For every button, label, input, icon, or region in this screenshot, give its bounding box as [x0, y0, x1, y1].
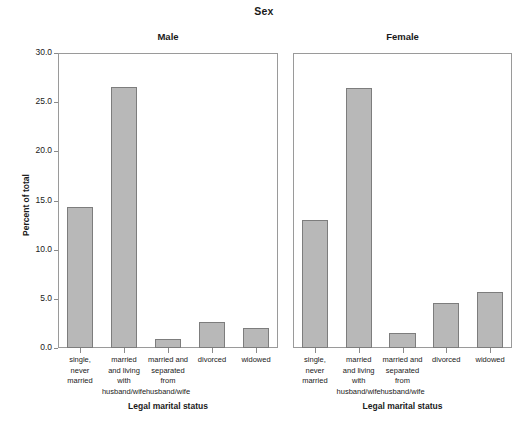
bars-layer: [293, 53, 512, 348]
panel-female: Female: [293, 53, 512, 348]
x-axis-title: Legal marital status: [58, 401, 278, 411]
x-axis-tick-mark: [315, 348, 316, 353]
bar: [477, 292, 503, 348]
y-axis-tick-label: 15.0: [20, 196, 52, 205]
bar: [302, 220, 328, 348]
bar: [243, 328, 269, 348]
panel-title: Male: [58, 31, 278, 42]
bar: [346, 88, 372, 348]
y-axis-tick-label: 30.0: [20, 48, 52, 57]
x-axis-tick-mark: [256, 348, 257, 353]
panel-title: Female: [293, 31, 512, 42]
x-axis-title: Legal marital status: [293, 401, 512, 411]
y-axis-tick-label: 5.0: [20, 294, 52, 303]
x-axis-tick-mark: [490, 348, 491, 353]
chart-figure: Sex Percent of total 0.05.010.015.020.02…: [0, 0, 528, 430]
y-axis-tick-label: 10.0: [20, 245, 52, 254]
bar: [155, 339, 181, 348]
bar: [111, 87, 137, 348]
bar: [199, 322, 225, 348]
y-axis-tick-label: 20.0: [20, 146, 52, 155]
x-axis-tick-mark: [168, 348, 169, 353]
x-axis-tick-mark: [403, 348, 404, 353]
y-axis-tick-label: 0.0: [20, 343, 52, 352]
panel-male: Male: [58, 53, 278, 348]
x-axis-tick-label: widowed: [227, 355, 285, 366]
y-axis-tick-label: 25.0: [20, 97, 52, 106]
bar: [67, 207, 93, 348]
x-axis-tick-mark: [446, 348, 447, 353]
x-axis-tick-mark: [80, 348, 81, 353]
x-axis-tick-mark: [124, 348, 125, 353]
y-axis-tick-mark: [54, 348, 58, 349]
x-axis-tick-mark: [212, 348, 213, 353]
bars-layer: [58, 53, 278, 348]
x-axis-tick-mark: [359, 348, 360, 353]
chart-title: Sex: [0, 5, 528, 17]
bar: [433, 303, 459, 348]
x-axis-tick-label: widowed: [461, 355, 519, 366]
bar: [389, 333, 415, 348]
